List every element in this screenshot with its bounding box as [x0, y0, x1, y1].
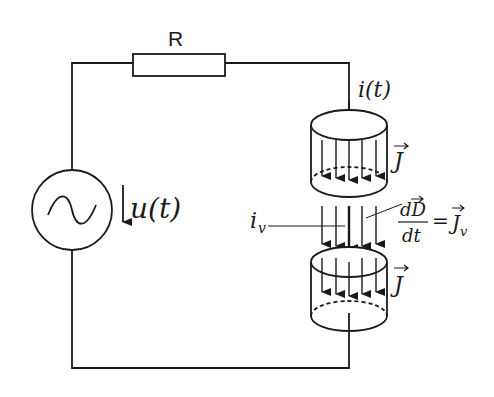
current-density-arrows-top	[322, 140, 376, 180]
resistor-label: R	[168, 27, 183, 50]
current-label: i(t)	[358, 77, 391, 102]
current-density-label-bottom: J	[390, 272, 404, 297]
source-voltage-label: u(t)	[130, 192, 181, 225]
displacement-current-label: i	[250, 208, 257, 233]
resistor	[133, 54, 225, 76]
dt-label: dt	[402, 225, 422, 246]
displacement-current-arrows	[322, 206, 376, 248]
equals-sign: =	[432, 209, 449, 233]
current-density-label-top: J	[390, 148, 404, 173]
circuit-wires	[72, 63, 349, 368]
dD-leader	[366, 204, 402, 218]
displacement-current-subscript: v	[258, 220, 266, 236]
dD-label: dD	[400, 199, 427, 220]
Jv-subscript: v	[460, 224, 468, 239]
ac-source-icon	[32, 170, 112, 250]
vector-arrow-icon	[394, 265, 408, 271]
circuit-diagram: R u(t) i(t) J i v dD dt =	[0, 0, 494, 397]
